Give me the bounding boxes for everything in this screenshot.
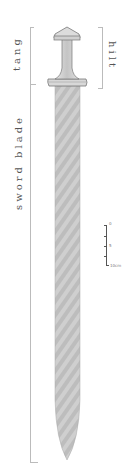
scale-label-0: 0: [109, 221, 112, 226]
guard-shape: [48, 79, 87, 86]
scale-label-5: 5: [109, 243, 112, 248]
sword-illustration: [0, 0, 131, 471]
blade-shape: [55, 86, 80, 460]
scale-label-10cm: 10cm: [110, 263, 121, 268]
grip-shape: [55, 39, 79, 79]
